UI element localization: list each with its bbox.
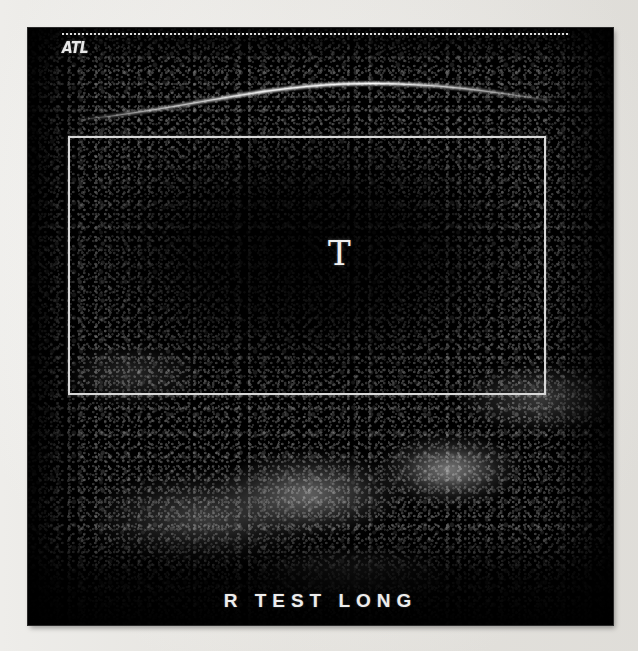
ultrasound-image-frame: ATL T R TEST LONG xyxy=(28,28,613,625)
image-caption: R TEST LONG xyxy=(28,590,613,612)
page-root: ATL T R TEST LONG xyxy=(0,0,638,651)
annotation-marker-t: T xyxy=(328,236,351,270)
roi-rectangle[interactable] xyxy=(68,136,546,395)
atl-logo: ATL xyxy=(62,39,88,57)
depth-scale-line xyxy=(62,33,570,35)
tissue-interface-arc xyxy=(58,72,578,126)
